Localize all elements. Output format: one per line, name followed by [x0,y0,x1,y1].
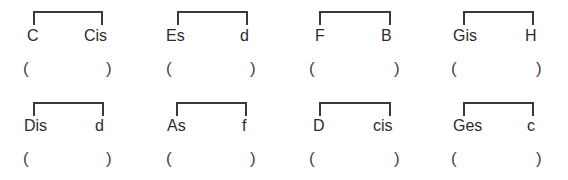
note-right: Cis [84,28,107,44]
answer-open-paren[interactable]: ( [309,60,315,77]
answer-close-paren[interactable]: ) [250,150,256,167]
answer-close-paren[interactable]: ) [394,150,400,167]
interval-bracket [33,11,103,25]
interval-bracket [176,102,247,116]
note-right: d [95,118,104,134]
note-left: Ges [453,118,482,134]
interval-bracket [319,11,391,25]
note-right: B [381,28,392,44]
interval-pair-8: Ges c ( ) [426,90,566,180]
note-left: Gis [453,28,477,44]
answer-close-paren[interactable]: ) [394,60,400,77]
note-left: D [313,118,325,134]
answer-open-paren[interactable]: ( [166,150,172,167]
note-left: Dis [24,118,47,134]
answer-open-paren[interactable]: ( [23,150,29,167]
note-left: C [27,28,39,44]
interval-bracket [463,11,534,25]
interval-pair-3: F B ( ) [284,0,424,90]
interval-bracket [463,102,534,116]
note-right: f [242,118,246,134]
interval-pair-6: As f ( ) [142,90,282,180]
note-right: cis [373,118,393,134]
answer-close-paren[interactable]: ) [536,150,542,167]
answer-open-paren[interactable]: ( [451,150,457,167]
interval-pair-4: Gis H ( ) [426,0,566,90]
answer-close-paren[interactable]: ) [536,60,542,77]
interval-pair-2: Es d ( ) [142,0,282,90]
answer-open-paren[interactable]: ( [166,60,172,77]
interval-bracket [319,102,391,116]
note-left: As [167,118,186,134]
note-right: c [527,118,535,134]
note-left: F [315,28,325,44]
interval-bracket [177,11,248,25]
answer-close-paren[interactable]: ) [250,60,256,77]
interval-bracket [33,102,104,116]
interval-pair-7: D cis ( ) [284,90,424,180]
note-right: d [240,28,249,44]
interval-pair-5: Dis d ( ) [0,90,140,180]
note-left: Es [166,28,185,44]
note-right: H [525,28,537,44]
interval-pair-1: C Cis ( ) [0,0,140,90]
answer-open-paren[interactable]: ( [309,150,315,167]
answer-close-paren[interactable]: ) [106,150,112,167]
answer-close-paren[interactable]: ) [106,60,112,77]
answer-open-paren[interactable]: ( [451,60,457,77]
answer-open-paren[interactable]: ( [23,60,29,77]
